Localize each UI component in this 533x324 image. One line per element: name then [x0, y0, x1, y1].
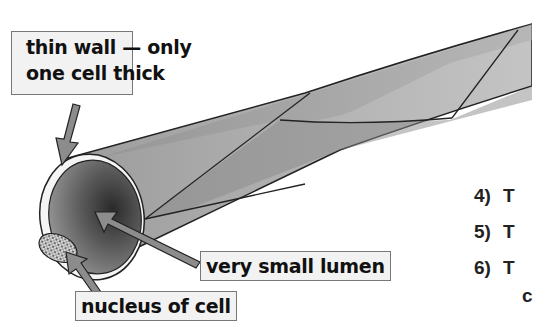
list-item-continuation: c [474, 286, 533, 306]
label-lumen: very small lumen [200, 251, 391, 281]
numbered-list: 4)T 5)T 6)T c [474, 178, 533, 306]
list-item: 6)T [474, 250, 533, 286]
label-thin-wall-line1: thin wall — only [26, 34, 127, 60]
label-nucleus: nucleus of cell [75, 291, 237, 321]
list-item: 5)T [474, 214, 533, 250]
list-item: 4)T [474, 178, 533, 214]
label-thin-wall-line2: one cell thick [26, 60, 127, 86]
label-thin-wall: thin wall — only one cell thick [11, 31, 133, 95]
